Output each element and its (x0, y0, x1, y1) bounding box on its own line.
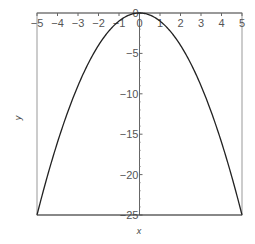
x-tick-label: 3 (198, 17, 204, 29)
x-tick-label: −1 (113, 17, 126, 29)
x-tick-label: −4 (51, 17, 64, 29)
x-tick-label: −5 (31, 17, 44, 29)
x-tick-label: 4 (218, 17, 224, 29)
y-tick-label: −20 (120, 169, 139, 181)
y-axis-label: y (13, 115, 23, 121)
x-tick-label: 5 (239, 17, 245, 29)
x-tick-label: −2 (92, 17, 105, 29)
parabola-chart: −5−4−3−2−1012345 0−5−10−15−20−25 x y (0, 0, 255, 244)
y-tick-label: −10 (120, 88, 139, 100)
y-tick-label: −15 (120, 128, 139, 140)
y-tick-label: −5 (126, 47, 139, 59)
x-tick-label: −3 (72, 17, 85, 29)
x-axis-label: x (136, 226, 142, 236)
x-tick-label: 2 (177, 17, 183, 29)
